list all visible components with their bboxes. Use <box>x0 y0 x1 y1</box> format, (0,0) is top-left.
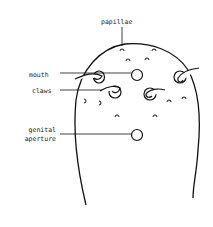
mouth-icon <box>132 70 143 81</box>
body-outline-drawing <box>0 0 213 227</box>
mouth-label: mouth <box>29 71 49 79</box>
body-outline <box>75 44 199 205</box>
genital-label-line2: aperture <box>14 135 56 143</box>
papillae-label: papillae <box>101 18 132 26</box>
claws-label: claws <box>32 87 52 95</box>
diagram-canvas: papillae mouth claws genital aperture <box>0 0 213 227</box>
genital-label-line1: genital <box>18 126 56 134</box>
genital-aperture-icon <box>132 130 143 141</box>
